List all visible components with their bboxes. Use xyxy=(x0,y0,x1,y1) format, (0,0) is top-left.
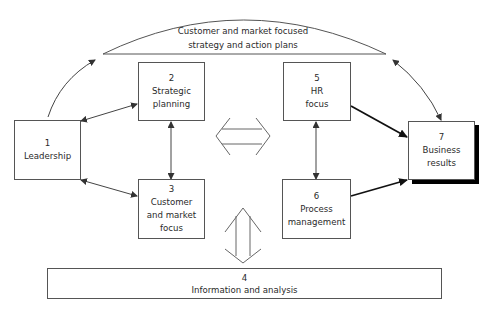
box-label: Leadership xyxy=(24,150,71,163)
vertical-double-arrow xyxy=(225,208,261,263)
box-number: 7 xyxy=(439,131,444,144)
box-number: 2 xyxy=(169,72,174,85)
box-label: focus xyxy=(306,98,329,111)
box-number: 3 xyxy=(169,183,174,196)
box-label: focus xyxy=(160,222,183,235)
box-label: HR xyxy=(311,85,323,98)
box-label: management xyxy=(288,216,346,229)
box-label: results xyxy=(427,157,456,170)
hr-results-arrow xyxy=(351,106,407,137)
box-process-management: 6 Process management xyxy=(282,179,351,239)
box-number: 5 xyxy=(314,72,319,85)
box-label: Customer xyxy=(151,196,193,209)
horizontal-double-arrow xyxy=(216,118,270,155)
leadership-strategic-arrow xyxy=(81,104,137,121)
box-label: planning xyxy=(153,98,190,111)
leadership-to-strategy-arrow xyxy=(48,60,95,117)
box-number: 4 xyxy=(242,272,247,284)
process-results-arrow xyxy=(351,180,407,196)
box-label: and market xyxy=(147,209,196,222)
strategy-header-line1: Customer and market focused xyxy=(140,24,346,38)
box-leadership: 1 Leadership xyxy=(14,120,81,180)
box-hr-focus: 5 HR focus xyxy=(283,62,351,121)
strategy-header-label: Customer and market focused strategy and… xyxy=(140,24,346,52)
box-number: 1 xyxy=(45,137,50,150)
box-label: Business xyxy=(423,144,461,157)
box-number: 6 xyxy=(314,190,319,203)
box-label: Strategic xyxy=(152,85,191,98)
box-label: Process xyxy=(300,203,333,216)
strategy-header-line2: strategy and action plans xyxy=(140,38,346,52)
box-label: Information and analysis xyxy=(191,284,297,296)
strategy-to-results-arrow xyxy=(393,60,441,120)
box-information-analysis: 4 Information and analysis xyxy=(47,268,442,299)
box-business-results: 7 Business results xyxy=(408,121,475,180)
leadership-customer-arrow xyxy=(81,180,137,196)
box-customer-market-focus: 3 Customer and market focus xyxy=(138,179,205,239)
box-strategic-planning: 2 Strategic planning xyxy=(138,62,205,121)
